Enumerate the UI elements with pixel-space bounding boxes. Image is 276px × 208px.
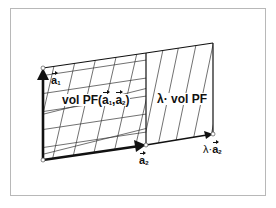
- label-a2: a2: [139, 155, 148, 166]
- label-a1: a1: [51, 75, 60, 86]
- origin-point: [41, 158, 45, 162]
- lambda-a2-extension: [146, 135, 210, 146]
- top-edge-right: [146, 43, 213, 53]
- top-edge-left: [43, 53, 146, 68]
- label-lambda-a2: λ·a2: [203, 144, 222, 155]
- label-vol-pf: vol PF(a1,a2): [61, 94, 130, 106]
- a1-point: [41, 66, 45, 70]
- a2-point: [144, 143, 148, 147]
- lambda-a2-point: [211, 132, 215, 136]
- label-lambda-vol-pf: λ· vol PF: [156, 93, 208, 105]
- vector-a2: [43, 147, 136, 161]
- parallelogram-diagram: [0, 0, 276, 208]
